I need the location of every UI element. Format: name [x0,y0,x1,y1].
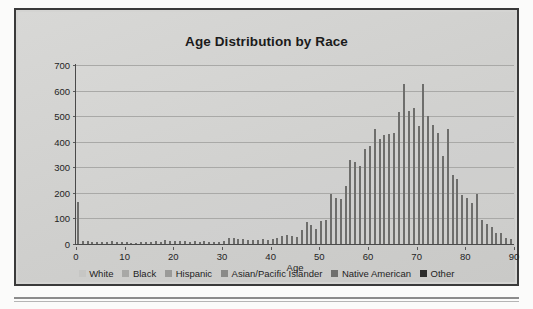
bar [179,241,181,244]
bar [208,242,210,244]
chart-frame: Age Distribution by Race # of patient 01… [14,8,519,286]
x-tick-mark [271,247,272,250]
y-axis-tick-labels: 0100200300400500600700 [30,65,70,244]
bar [121,242,123,244]
bar [203,241,205,244]
x-tick-label: 40 [265,251,276,262]
y-tick-label: 0 [36,239,70,250]
bar [301,230,303,244]
x-axis-tick-labels: 0102030405060708090 [76,247,514,261]
bar [432,125,434,244]
bar [174,241,176,244]
bar [379,139,381,244]
bar [413,108,415,244]
bar [388,134,390,244]
bar [213,242,215,244]
x-tick-label: 80 [460,251,471,262]
x-tick-label: 30 [217,251,228,262]
bar [476,194,478,244]
bar [150,242,152,244]
legend-item[interactable]: Hispanic [165,268,212,279]
bar [199,242,201,244]
bar [335,198,337,244]
bar [510,239,512,244]
bar [189,242,191,244]
page-rule-primary [14,297,519,299]
bar [267,240,269,244]
bar [281,236,283,244]
legend-swatch-icon [165,270,172,277]
bar [155,241,157,244]
bar [237,239,239,244]
y-tick-label: 400 [36,136,70,147]
page-rule-secondary [14,301,519,302]
x-tick-mark [319,247,320,250]
bar [247,240,249,244]
bar [315,229,317,244]
bar [135,243,137,244]
bar [77,202,79,244]
bar [422,84,424,244]
bar [364,149,366,244]
legend-swatch-icon [122,270,129,277]
bar [310,225,312,244]
bar [228,238,230,244]
bar [325,220,327,244]
legend-label: Black [133,268,156,279]
bar [130,243,132,244]
legend-item[interactable]: Asian/Pacific Islander [221,268,322,279]
bar [452,175,454,244]
bar [359,166,361,244]
bar [160,242,162,244]
bar [471,203,473,244]
bar [91,242,93,244]
bar [345,186,347,244]
bar [466,198,468,244]
bar [491,227,493,244]
legend-swatch-icon [331,270,338,277]
bar [252,240,254,244]
bar [194,241,196,244]
bar [442,156,444,244]
bar [145,242,147,244]
bar [96,242,98,244]
legend-swatch-icon [79,270,86,277]
bar [456,179,458,244]
bar [349,160,351,244]
y-tick-label: 200 [36,187,70,198]
bar [427,116,429,244]
legend-swatch-icon [221,270,228,277]
bar [218,242,220,244]
bar [374,129,376,244]
bar [126,242,128,244]
y-tick-label: 500 [36,111,70,122]
bar [398,112,400,244]
bar [481,220,483,244]
bar [257,240,259,244]
legend-item[interactable]: Black [122,268,156,279]
bar [106,242,108,244]
y-tick-label: 600 [36,85,70,96]
x-tick-mark [222,247,223,250]
bar [233,238,235,244]
bar [418,126,420,244]
chart-screenshot: Age Distribution by Race # of patient 01… [0,0,533,309]
legend-item[interactable]: White [79,268,114,279]
bar [164,240,166,244]
x-tick-mark [76,247,77,250]
y-tick-label: 300 [36,162,70,173]
x-axis-line [75,244,514,245]
bar [320,221,322,244]
bar [82,241,84,244]
bar [140,242,142,244]
bar [184,241,186,244]
bar [354,162,356,244]
legend-item[interactable]: Native American [331,268,411,279]
bar [276,238,278,244]
bar [101,242,103,244]
bar [486,224,488,244]
chart-title: Age Distribution by Race [18,34,515,49]
x-tick-label: 70 [411,251,422,262]
legend-item[interactable]: Other [420,268,454,279]
bar [447,129,449,244]
